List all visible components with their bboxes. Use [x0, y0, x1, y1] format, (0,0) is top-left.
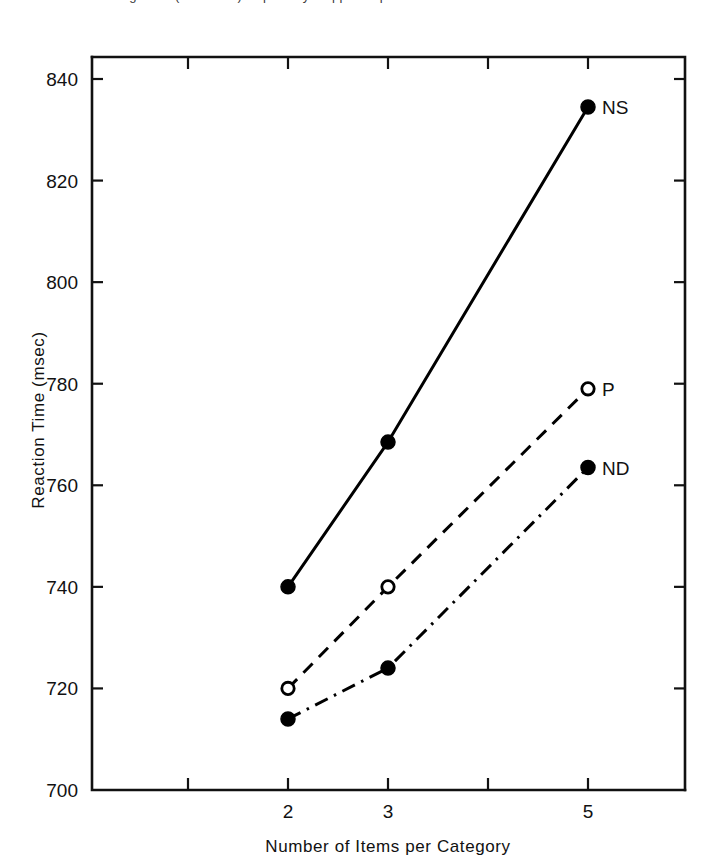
- axis-left-bottom: [92, 57, 685, 790]
- y-tick-label: 700: [46, 780, 78, 801]
- series-layer: [281, 100, 595, 726]
- x-tick-label: 5: [583, 801, 594, 822]
- y-axis-ticks: [92, 79, 685, 688]
- x-tick-label: 3: [383, 801, 394, 822]
- series-label-p: P: [602, 379, 615, 400]
- data-point-nd: [281, 712, 295, 726]
- y-tick-label: 820: [46, 171, 78, 192]
- y-tick-label: 800: [46, 272, 78, 293]
- data-point-p: [282, 682, 294, 694]
- series-label-nd: ND: [602, 458, 629, 479]
- series-line-p: [288, 389, 588, 689]
- x-axis-title: Number of Items per Category: [265, 837, 510, 856]
- y-axis-title: Reaction Time (msec): [29, 331, 48, 508]
- series-line-ns: [288, 107, 588, 587]
- data-point-ns: [281, 580, 295, 594]
- series-labels: NSPND: [602, 97, 629, 479]
- axis-top-right: [92, 57, 685, 790]
- data-point-nd: [581, 461, 595, 475]
- y-tick-label: 840: [46, 69, 78, 90]
- plot-frame: [92, 57, 685, 790]
- y-tick-label: 760: [46, 475, 78, 496]
- series-line-nd: [288, 468, 588, 719]
- y-axis-tick-labels: 700720740760780800820840: [46, 69, 78, 801]
- x-tick-label: 2: [283, 801, 294, 822]
- data-point-p: [382, 581, 394, 593]
- series-label-ns: NS: [602, 97, 628, 118]
- y-tick-label: 720: [46, 678, 78, 699]
- figure-container: Figure 2. (continued) — partially croppe…: [0, 0, 701, 865]
- data-point-p: [582, 383, 594, 395]
- y-tick-label: 740: [46, 577, 78, 598]
- data-point-nd: [381, 661, 395, 675]
- data-point-ns: [381, 435, 395, 449]
- line-chart: 700720740760780800820840 235 NSPND React…: [0, 0, 701, 865]
- x-axis-tick-labels: 235: [283, 801, 594, 822]
- data-point-ns: [581, 100, 595, 114]
- x-axis-ticks: [188, 57, 588, 790]
- y-tick-label: 780: [46, 374, 78, 395]
